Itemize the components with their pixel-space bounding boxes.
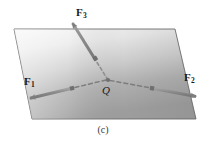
vector-label-f2: F2 — [184, 72, 195, 84]
vector-label-f3: F3 — [76, 7, 87, 19]
point-label-q: Q — [102, 85, 110, 96]
vector-label-f1: F1 — [24, 76, 35, 88]
force-vector-figure: F1 F2 F3 Q (c) — [0, 0, 206, 148]
point-q-marker — [106, 78, 110, 82]
f2-midpoint-marker — [150, 86, 155, 91]
figure-caption: (c) — [0, 124, 206, 135]
